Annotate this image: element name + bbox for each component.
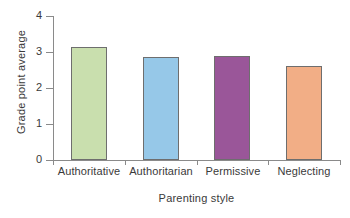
x-axis-category-label: Authoritative [53, 165, 125, 177]
y-axis-tick-mark [46, 124, 54, 125]
bar [143, 57, 179, 160]
bar [214, 56, 250, 160]
x-axis-title: Parenting style [53, 192, 340, 204]
bar-chart-figure: Grade point average 43210 AuthoritativeA… [0, 0, 350, 218]
x-axis-category-label: Neglecting [268, 165, 340, 177]
x-axis-category-label: Authoritarian [125, 165, 197, 177]
y-axis-tick-label: 3 [0, 46, 42, 57]
y-axis-tick-mark [46, 16, 54, 17]
y-axis-tick-label: 2 [0, 82, 42, 93]
y-axis-tick-mark [46, 52, 54, 53]
y-axis-tick-label: 4 [0, 10, 42, 21]
y-axis-tick-label: 0 [0, 154, 42, 165]
bar [286, 66, 322, 160]
y-axis-tick-label: 1 [0, 118, 42, 129]
x-axis-tick-mark [340, 160, 341, 165]
x-axis-category-label: Permissive [197, 165, 269, 177]
bar [71, 47, 107, 160]
y-axis-tick-mark [46, 88, 54, 89]
